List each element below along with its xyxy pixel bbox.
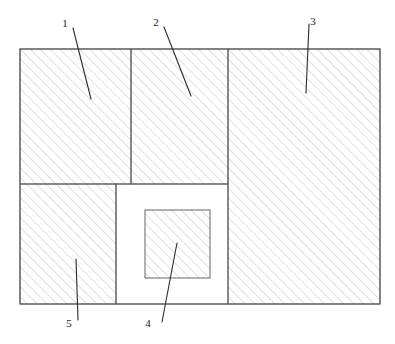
region-fill-region-5 xyxy=(20,184,116,304)
region-fill-region-1 xyxy=(20,49,131,184)
reference-numeral-3: 3 xyxy=(310,15,316,27)
cross-section-diagram: 12345 xyxy=(0,0,395,344)
reference-numeral-4: 4 xyxy=(145,317,151,329)
region-fills xyxy=(20,49,380,304)
reference-numeral-1: 1 xyxy=(62,17,68,29)
region-fill-region-2 xyxy=(131,49,228,184)
reference-numeral-2: 2 xyxy=(153,16,159,28)
region-fill-region-4 xyxy=(145,210,210,278)
region-fill-region-3 xyxy=(228,49,380,304)
figure-canvas: 12345 xyxy=(0,0,395,344)
reference-numeral-5: 5 xyxy=(66,317,72,329)
